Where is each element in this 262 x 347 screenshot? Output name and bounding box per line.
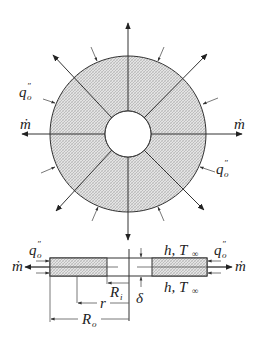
svg-text:∞: ∞ [192, 249, 198, 259]
svg-text:q: q [216, 161, 224, 177]
flux-arrow-icon [41, 167, 55, 173]
flux-arrow-icon [203, 98, 218, 104]
svg-text:o: o [27, 92, 32, 102]
top-view: ṁ ṁ q o ″ q o ″ [19, 23, 245, 240]
flux-arrow-icon [158, 207, 164, 221]
svg-text:∞: ∞ [192, 286, 198, 296]
flux-arrow-icon [91, 47, 97, 61]
svg-text:o: o [92, 319, 97, 329]
label-heat-flux-left: q o ″ [19, 81, 32, 102]
label-convection-bottom: h, T ∞ [164, 279, 198, 296]
label-radius-r: r [100, 295, 106, 311]
label-mass-flow-right: ṁ [234, 116, 245, 132]
label-outer-radius: R o [81, 311, 97, 329]
svg-text:h, T: h, T [164, 242, 189, 258]
svg-text:q: q [19, 84, 27, 100]
flux-arrow-icon [92, 207, 98, 221]
label-convection-top: h, T ∞ [164, 242, 198, 259]
label-mass-flow-right: ṁ [235, 258, 246, 274]
svg-text:o: o [222, 250, 227, 260]
label-inner-radius: R i [109, 284, 123, 302]
svg-text:″: ″ [27, 81, 31, 91]
svg-text:h, T: h, T [164, 279, 189, 295]
svg-text:q: q [29, 242, 37, 258]
svg-text:″: ″ [37, 239, 41, 249]
flux-arrow-icon [43, 99, 55, 103]
flux-arrow-icon [158, 47, 164, 61]
svg-text:o: o [37, 250, 42, 260]
label-heat-flux-right: q o ″ [214, 239, 227, 260]
svg-text:″: ″ [224, 158, 228, 168]
svg-text:q: q [214, 242, 222, 258]
label-mass-flow-left: ṁ [12, 258, 23, 274]
svg-text:R: R [81, 311, 91, 327]
flux-arrow-icon [200, 167, 215, 172]
label-mass-flow-left: ṁ [20, 116, 31, 132]
label-heat-flux-right: q o ″ [216, 158, 229, 179]
svg-text:R: R [109, 284, 119, 300]
cross-section-view: q o ″ q o ″ ṁ ṁ h, T ∞ h, T ∞ R i r R o … [12, 239, 246, 329]
label-thickness-delta: δ [136, 290, 144, 306]
svg-text:o: o [224, 169, 229, 179]
annular-fin-diagram: ṁ ṁ q o ″ q o ″ [0, 0, 262, 347]
label-heat-flux-left: q o ″ [29, 239, 42, 260]
svg-text:i: i [120, 292, 123, 302]
svg-text:″: ″ [222, 239, 226, 249]
